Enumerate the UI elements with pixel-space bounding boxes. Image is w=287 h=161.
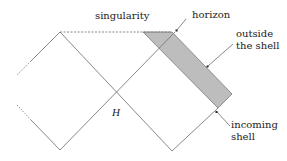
horizon-pointer <box>177 19 186 30</box>
H-label: H <box>111 106 121 118</box>
lower-left-edge <box>31 120 60 150</box>
penrose-diagram: singularity horizon outside the shell in… <box>0 0 287 161</box>
incoming-shell-label-line1: incoming <box>231 119 278 130</box>
incoming-pointer-dot <box>216 111 218 113</box>
horizon-label: horizon <box>192 9 231 20</box>
horizon-pointer-dot <box>176 30 178 32</box>
shell-region <box>143 32 232 108</box>
upper-left-edge-dotted <box>17 61 31 75</box>
outside-pointer-dot <box>207 66 209 68</box>
outside-shell-label-line2: the shell <box>236 40 279 51</box>
outside-pointer <box>208 44 233 66</box>
upper-left-edge <box>31 32 60 61</box>
lower-right-edge <box>172 108 218 151</box>
lower-left-edge-dotted <box>17 105 31 120</box>
incoming-shell-label-line2: shell <box>231 131 255 142</box>
singularity-label: singularity <box>95 10 150 21</box>
incoming-pointer <box>217 112 230 126</box>
outside-shell-label-line1: outside <box>236 28 273 39</box>
